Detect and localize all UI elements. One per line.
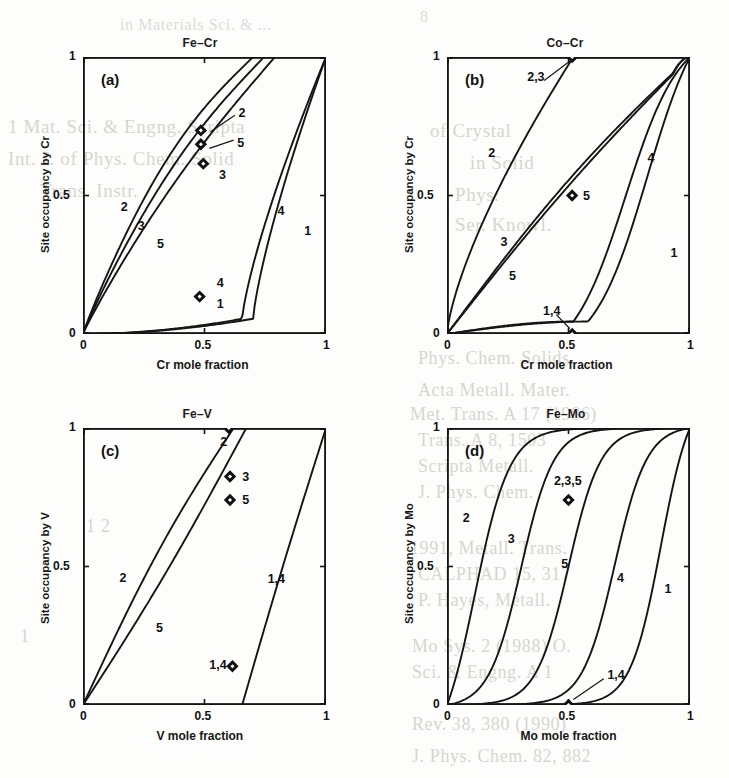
panel-title-d: Fe–Mo: [547, 407, 586, 421]
curve-label: 4: [217, 276, 224, 290]
background-showthrough-text: 8: [420, 8, 429, 26]
x-tick-label: 0.5: [195, 709, 212, 723]
curve-label: 1: [217, 297, 224, 311]
x-tick-label: 0: [80, 709, 87, 723]
curve-label: 4: [647, 151, 654, 165]
curve-3: [83, 57, 326, 334]
curve-label: 5: [583, 189, 590, 203]
curve-label: 2: [220, 435, 227, 449]
curve-label: 1,4: [268, 572, 285, 586]
curve-label: 1,4: [607, 668, 624, 682]
y-tick-label: 0: [433, 697, 440, 711]
panel-tag-d: (d): [465, 442, 484, 459]
y-axis-label-d: Site occupancy by Mo: [403, 503, 415, 624]
data-marker-diamond: [225, 471, 235, 481]
axes-frame: [84, 58, 325, 333]
annotation-leader-line: [209, 140, 233, 148]
plot-panel-d: 235412,3,51,4(d): [447, 428, 690, 705]
curve-label: 2: [463, 511, 470, 525]
x-axis-label-a: Cr mole fraction: [157, 358, 249, 372]
x-tick-label: 0: [80, 338, 87, 352]
x-tick-label: 0.5: [559, 709, 576, 723]
curve-label: 1: [664, 582, 671, 596]
curve-label: 3: [138, 219, 145, 233]
curve-label: 3: [219, 168, 226, 182]
curve-label: 3: [242, 470, 249, 484]
curve-label: 1: [671, 246, 678, 260]
panel-title-a: Fe–Cr: [183, 36, 218, 50]
curve-label: 1,4: [543, 304, 560, 318]
curve-label: 2: [488, 146, 495, 160]
figure-site-occupancy-panels: 1 Mat. Sci. & Engng. ScriptaInt. J. of P…: [0, 0, 729, 778]
data-marker-diamond: [198, 158, 208, 168]
curve-label: 2,3: [527, 70, 544, 84]
curve-label: 5: [509, 269, 516, 283]
annotation-leader-line: [573, 679, 603, 700]
panel-tag-a: (a): [101, 71, 119, 88]
curve-label: 5: [561, 557, 568, 571]
x-tick-label: 0.5: [195, 338, 212, 352]
y-tick-label: 0.5: [417, 188, 434, 202]
background-showthrough-text: 1: [20, 626, 30, 647]
x-tick-label: 1: [687, 338, 694, 352]
data-marker-diamond: [225, 495, 235, 505]
y-tick-label: 0: [69, 697, 76, 711]
curve-label: 1,4: [209, 658, 226, 672]
x-tick-label: 1: [323, 709, 330, 723]
y-tick-label: 1: [69, 49, 76, 63]
data-marker-diamond: [563, 700, 573, 705]
data-marker-diamond: [567, 190, 577, 200]
curve-2: [83, 57, 326, 334]
curve-label: 3: [500, 235, 507, 249]
background-showthrough-text: in Materials Sci. & ...: [120, 16, 272, 34]
x-axis-label-b: Cr mole fraction: [521, 358, 613, 372]
curve-label: 2: [121, 200, 128, 214]
panel-title-c: Fe–V: [183, 407, 212, 421]
y-tick-label: 0.5: [417, 559, 434, 573]
x-tick-label: 0.5: [559, 338, 576, 352]
x-tick-label: 1: [687, 709, 694, 723]
y-tick-label: 1: [433, 420, 440, 434]
background-showthrough-text: J. Phys. Chem. 82, 882: [412, 746, 591, 767]
y-tick-label: 0.5: [53, 559, 70, 573]
y-tick-label: 1: [433, 49, 440, 63]
panel-tag-c: (c): [101, 442, 119, 459]
panel-tag-b: (b): [465, 71, 484, 88]
y-axis-label-a: Site occupancy by Cr: [39, 136, 51, 253]
curve-label: 4: [617, 571, 624, 585]
axes-b: [447, 57, 690, 334]
panel-title-b: Co–Cr: [547, 36, 584, 50]
data-marker-diamond: [563, 495, 573, 505]
plot-panel-a: 2354125341(a): [83, 57, 326, 334]
data-marker-diamond: [194, 291, 204, 301]
plot-panel-b: 235412,31,45(b): [447, 57, 690, 334]
plot-panel-c: 251,42351,4(c): [83, 428, 326, 705]
curve-label: 5: [156, 621, 163, 635]
x-axis-label-c: V mole fraction: [157, 729, 244, 743]
curve-1: [83, 57, 326, 334]
curve-label: 3: [508, 532, 515, 546]
curve-1-4: [242, 428, 326, 704]
curve-label: 4: [277, 204, 284, 218]
y-axis-label-c: Site occupancy by V: [39, 512, 51, 624]
curve-label: 5: [157, 237, 164, 251]
y-tick-label: 0: [69, 326, 76, 340]
curve-label: 5: [242, 493, 249, 507]
x-axis-label-d: Mo mole fraction: [521, 729, 617, 743]
curve-4: [83, 57, 326, 334]
curve-label: 1: [304, 224, 311, 238]
annotation-leader-line: [544, 61, 570, 80]
curve-label: 2,3,5: [554, 474, 582, 488]
axes-a: [83, 57, 326, 334]
x-tick-label: 1: [323, 338, 330, 352]
curve-label: 2: [239, 106, 246, 120]
axes-d: [447, 428, 690, 705]
y-tick-label: 0.5: [53, 188, 70, 202]
curve-label: 5: [237, 136, 244, 150]
x-tick-label: 0: [444, 709, 451, 723]
y-axis-label-b: Site occupancy by Cr: [403, 136, 415, 253]
curve-5: [447, 428, 690, 705]
background-showthrough-text: Acta Metall. Mater.: [418, 380, 570, 401]
axes-c: [83, 428, 326, 705]
data-marker-diamond: [227, 661, 237, 671]
